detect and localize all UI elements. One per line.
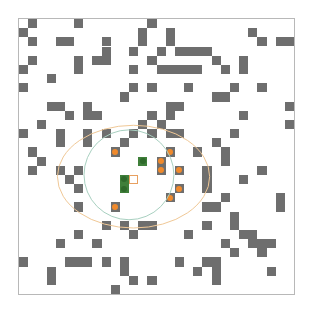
obstacle-cell [129,230,138,239]
obstacle-cell [19,65,28,74]
obstacle-cell [47,74,56,83]
obstacle-cell [92,239,101,248]
obstacle-cell [175,102,184,111]
obstacle-cell [92,56,101,65]
obstacle-cell [276,37,285,46]
frontier-cell [120,175,129,184]
obstacle-cell [184,83,193,92]
obstacle-cell [138,120,147,129]
obstacle-cell [221,239,230,248]
obstacle-cell [111,285,120,294]
obstacle-cell [129,83,138,92]
obstacle-cell [28,166,37,175]
visited-obstacle-cell [111,202,120,211]
visited-obstacle-cell-dot-icon [176,186,182,192]
obstacle-cell [166,111,175,120]
obstacle-cell [230,248,239,257]
obstacle-cell [285,120,294,129]
obstacle-cell [239,111,248,120]
obstacle-cell [56,138,65,147]
visited-obstacle-cell [111,147,120,156]
obstacle-cell [184,230,193,239]
frontier-cell [138,157,147,166]
obstacle-cell [102,37,111,46]
obstacle-cell [193,147,202,156]
frontier-cell-dot-icon [121,176,127,182]
obstacle-cell [102,257,111,266]
obstacle-cell [285,37,294,46]
obstacle-cell [47,276,56,285]
frontier-cell [120,184,129,193]
obstacle-cell [147,221,156,230]
obstacle-cell [166,28,175,37]
obstacle-cell [230,83,239,92]
obstacle-cell [92,111,101,120]
obstacle-cell [19,129,28,138]
obstacle-cell [221,92,230,101]
obstacle-cell [276,193,285,202]
obstacle-cell [175,47,184,56]
obstacle-cell [285,102,294,111]
obstacle-cell [267,239,276,248]
obstacle-cell [257,37,266,46]
obstacle-cell [157,65,166,74]
obstacle-cell [28,147,37,156]
obstacle-cell [147,276,156,285]
obstacle-cell [37,157,46,166]
obstacle-cell [202,47,211,56]
agent-cell [129,175,138,184]
visited-obstacle-cell [157,157,166,166]
obstacle-cell [184,65,193,74]
obstacle-cell [56,239,65,248]
obstacle-cell [175,65,184,74]
obstacle-cell [102,129,111,138]
obstacle-cell [74,166,83,175]
obstacle-cell [230,212,239,221]
obstacle-cell [120,267,129,276]
visited-obstacle-cell [175,166,184,175]
obstacle-cell [239,65,248,74]
obstacle-cell [202,184,211,193]
obstacle-cell [65,37,74,46]
visited-obstacle-cell-dot-icon [176,167,182,173]
obstacle-cell [157,47,166,56]
obstacle-cell [83,102,92,111]
obstacle-cell [212,202,221,211]
obstacle-cell [19,83,28,92]
obstacle-cell [202,257,211,266]
obstacle-cell [74,19,83,28]
obstacle-cell [212,257,221,266]
obstacle-cell [221,65,230,74]
obstacle-cell [74,56,83,65]
obstacle-cell [147,19,156,28]
obstacle-cell [239,175,248,184]
obstacle-cell [175,257,184,266]
obstacle-cell [102,221,111,230]
visited-obstacle-cell-dot-icon [158,167,164,173]
obstacle-cell [74,65,83,74]
frontier-cell-dot-icon [121,186,127,192]
obstacle-cell [28,56,37,65]
obstacle-cell [83,129,92,138]
obstacle-cell [56,102,65,111]
obstacle-cell [248,230,257,239]
obstacle-cell [212,138,221,147]
visited-obstacle-cell [175,184,184,193]
obstacle-cell [56,129,65,138]
obstacle-cell [19,28,28,37]
visited-obstacle-cell-dot-icon [158,158,164,164]
obstacle-cell [74,257,83,266]
obstacle-cell [212,92,221,101]
obstacle-cell [83,138,92,147]
obstacle-cell [47,267,56,276]
obstacle-cell [56,166,65,175]
obstacle-cell [166,129,175,138]
obstacle-cell [65,175,74,184]
visited-obstacle-cell-dot-icon [167,149,173,155]
obstacle-cell [184,47,193,56]
obstacle-cell [65,111,74,120]
occupancy-grid [18,18,295,295]
obstacle-cell [257,239,266,248]
obstacle-cell [74,184,83,193]
obstacle-cell [147,56,156,65]
